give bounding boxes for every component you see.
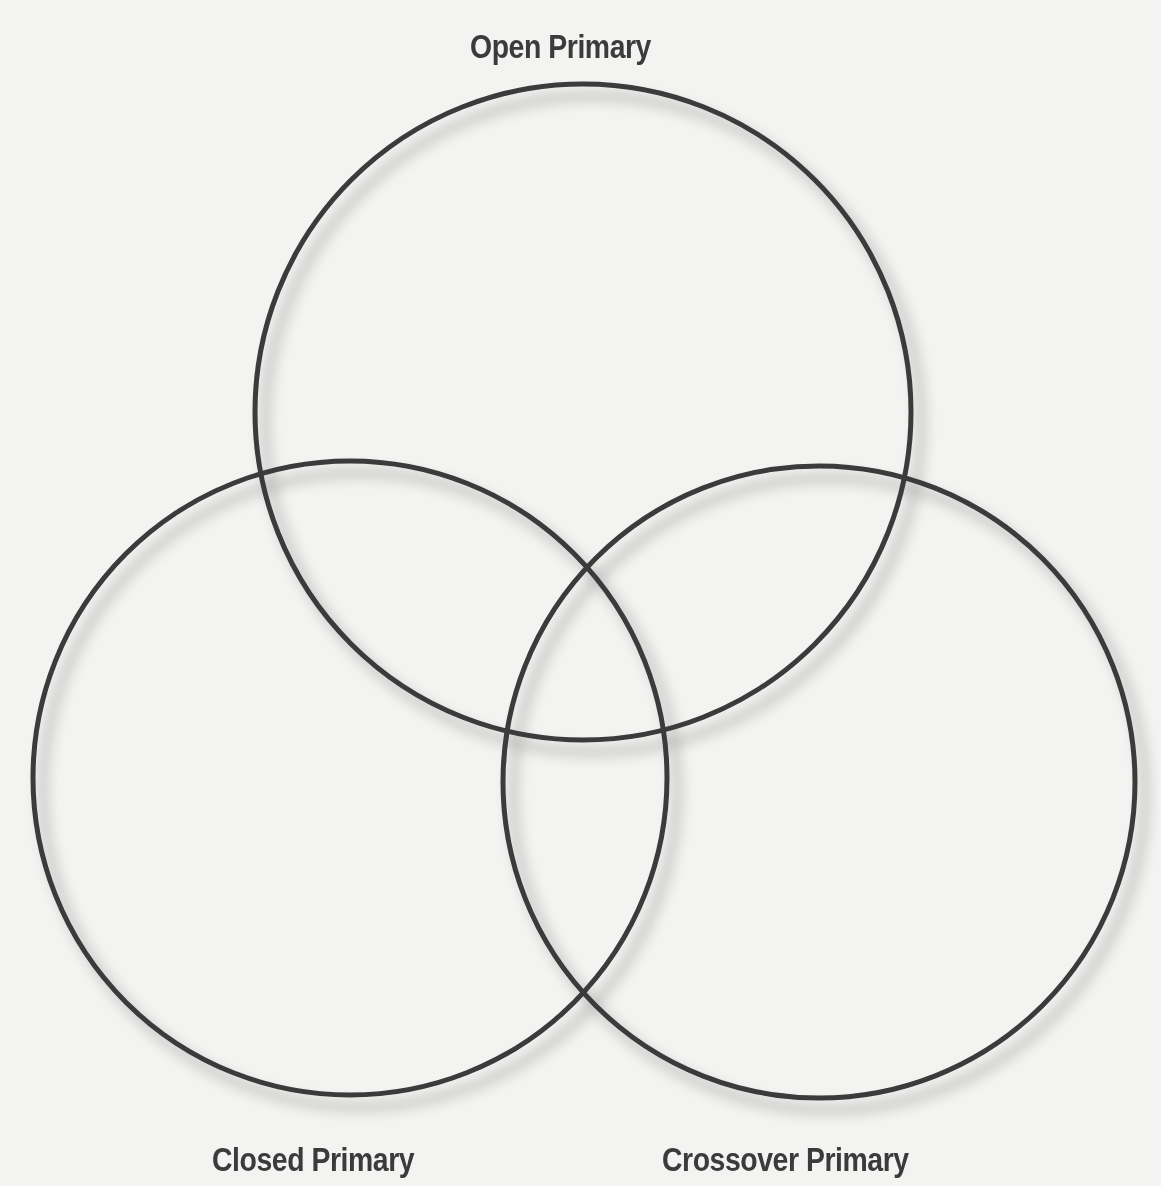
venn-diagram <box>0 0 1161 1186</box>
circle-open-primary <box>255 84 911 740</box>
label-open-primary: Open Primary <box>470 30 651 63</box>
circle-crossover-primary <box>503 466 1135 1098</box>
label-closed-primary: Closed Primary <box>212 1143 414 1176</box>
label-crossover-primary: Crossover Primary <box>662 1143 909 1176</box>
circle-closed-primary <box>33 461 667 1095</box>
